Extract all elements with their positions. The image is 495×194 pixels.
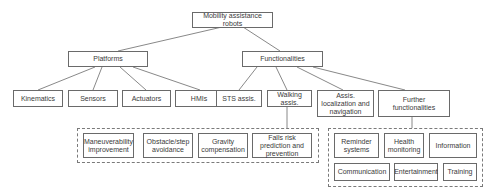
node-label: Maneuverability improvement	[84, 138, 133, 154]
node-label: Walking assis.	[269, 91, 310, 107]
node-label: Reminder systems	[336, 138, 377, 154]
node-sts-assis: STS assis.	[216, 90, 262, 107]
node-label: Assis. localization and navigation	[319, 92, 372, 116]
node-training: Training	[443, 163, 477, 181]
node-sensors: Sensors	[68, 90, 118, 107]
node-entertainment: Entertainment	[394, 163, 438, 181]
node-label: Entertainment	[394, 168, 438, 176]
node-kinematics: Kinematics	[13, 90, 63, 107]
node-label: Gravity compensation	[200, 138, 246, 154]
node-further-functionalities: Further functionalities	[378, 90, 450, 117]
node-label: STS assis.	[222, 95, 255, 103]
node-communication: Communication	[334, 163, 390, 181]
node-label: Further functionalities	[380, 96, 448, 112]
node-label: Sensors	[80, 95, 106, 103]
node-actuators: Actuators	[122, 90, 171, 107]
node-label: Platforms	[93, 55, 123, 63]
node-assis-localization-navigation: Assis. localization and navigation	[317, 90, 374, 117]
node-mobility-assistance-robots: Mobility assistance robots	[192, 12, 273, 28]
node-label: HMIs	[191, 95, 207, 103]
node-label: Falls risk prediction and prevention	[254, 134, 310, 158]
node-platforms: Platforms	[68, 51, 148, 67]
node-maneuverability-improvement: Maneuverability improvement	[83, 133, 134, 158]
node-gravity-compensation: Gravity compensation	[198, 133, 248, 158]
node-reminder-systems: Reminder systems	[334, 133, 379, 158]
node-information: Information	[429, 133, 477, 158]
node-falls-risk-prediction: Falls risk prediction and prevention	[252, 133, 312, 158]
node-label: Obstacle/step avoidance	[145, 138, 191, 154]
node-functionalities: Functionalities	[242, 51, 323, 67]
node-label: Information	[435, 142, 470, 150]
node-walking-assis: Walking assis.	[267, 90, 312, 107]
node-obstacle-step-avoidance: Obstacle/step avoidance	[143, 133, 193, 158]
node-label: Actuators	[132, 95, 162, 103]
diagram-canvas: Mobility assistance robots Platforms Fun…	[0, 0, 495, 194]
node-label: Training	[447, 168, 472, 176]
node-label: Functionalities	[260, 55, 305, 63]
node-label: Communication	[338, 168, 387, 176]
node-health-monitoring: Health monitoring	[384, 133, 424, 158]
node-label: Health monitoring	[386, 138, 422, 154]
node-label: Kinematics	[21, 95, 55, 103]
node-label: Mobility assistance robots	[194, 12, 271, 28]
